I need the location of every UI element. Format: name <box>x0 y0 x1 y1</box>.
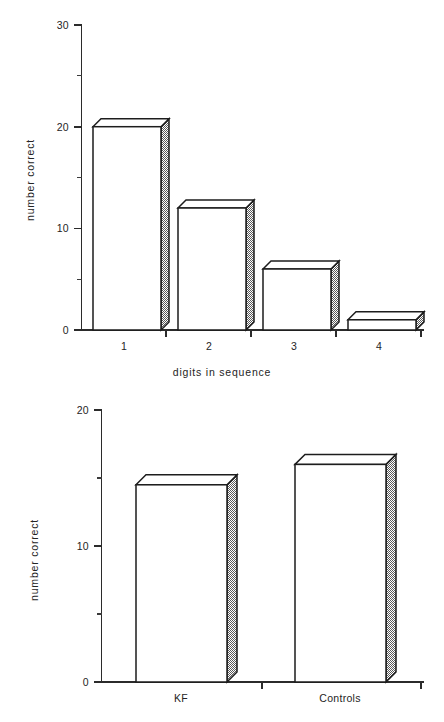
digit-span-chart: 0 10 20 30 <box>0 0 444 390</box>
digit-span-chart-svg: 0 10 20 30 <box>0 0 444 390</box>
bar-2-front <box>178 208 246 330</box>
bar-3-top <box>263 261 339 269</box>
bar-2-side <box>246 200 254 330</box>
y-tick-label-10: 10 <box>57 222 69 234</box>
bar-kf-side <box>227 475 237 682</box>
bar-1-top <box>93 119 169 127</box>
y-axis-title: number correct <box>24 139 36 221</box>
y-tick-label-20: 20 <box>57 121 69 133</box>
y-tick-label-0: 0 <box>83 676 89 688</box>
bar-group-4 <box>348 312 424 330</box>
bar-controls-top <box>295 454 396 464</box>
y-tick-label-0: 0 <box>63 324 69 336</box>
bar-kf-front <box>136 485 227 682</box>
bar-3-side <box>331 261 339 330</box>
bar-controls-front <box>295 464 386 682</box>
x-tick-label-kf: KF <box>174 692 188 704</box>
figure-page: 0 10 20 30 <box>0 0 444 722</box>
bar-4-top <box>348 312 424 320</box>
bar-4-front <box>348 320 416 330</box>
kf-vs-controls-chart-svg: 0 10 20 KF Controls number correct <box>0 390 444 722</box>
y-axis-title: number correct <box>28 519 40 601</box>
y-tick-label-30: 30 <box>57 19 69 31</box>
bar-1-side <box>161 119 169 330</box>
x-tick-label-2: 2 <box>206 340 212 352</box>
bar-group-1 <box>93 119 169 330</box>
bar-group-2 <box>178 200 254 330</box>
x-tick-label-3: 3 <box>291 340 297 352</box>
x-tick-label-4: 4 <box>376 340 382 352</box>
bar-kf-top <box>136 475 237 485</box>
bar-2-top <box>178 200 254 208</box>
x-tick-label-1: 1 <box>121 340 127 352</box>
y-tick-label-10: 10 <box>77 540 89 552</box>
y-tick-label-20: 20 <box>77 404 89 416</box>
bar-3-front <box>263 269 331 330</box>
x-tick-label-controls: Controls <box>319 692 361 704</box>
bar-group-controls <box>295 454 396 682</box>
bar-1-front <box>93 127 161 330</box>
bar-controls-side <box>386 454 396 682</box>
x-axis-title: digits in sequence <box>173 366 271 378</box>
bar-group-3 <box>263 261 339 330</box>
bar-group-kf <box>136 475 237 682</box>
kf-vs-controls-chart: 0 10 20 KF Controls number correct <box>0 390 444 722</box>
